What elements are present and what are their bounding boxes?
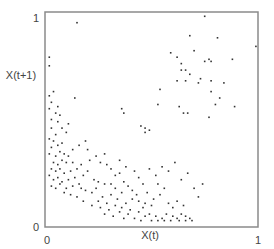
- data-point: [49, 56, 51, 58]
- data-point: [70, 194, 72, 196]
- data-point: [49, 153, 51, 155]
- data-point: [68, 179, 70, 181]
- data-point: [74, 97, 76, 99]
- data-point: [185, 215, 187, 217]
- data-point: [110, 168, 112, 170]
- data-point: [161, 218, 163, 220]
- data-point: [189, 218, 191, 220]
- data-point: [210, 61, 212, 63]
- scatter-chart: 1 0 0 1 X(t+1) X(t): [0, 0, 274, 249]
- data-point: [210, 91, 212, 93]
- data-point: [185, 220, 187, 222]
- data-point: [119, 211, 121, 213]
- data-point: [100, 162, 102, 164]
- data-point: [185, 69, 187, 71]
- data-point: [123, 112, 125, 114]
- data-point: [176, 218, 178, 220]
- data-point: [144, 215, 146, 217]
- data-point: [142, 183, 144, 185]
- x-tick-0: 0: [44, 234, 50, 246]
- data-point: [59, 168, 61, 170]
- data-point: [140, 125, 142, 127]
- x-tick-1: 1: [255, 234, 261, 246]
- data-point: [168, 170, 170, 172]
- data-point: [157, 183, 159, 185]
- data-point: [157, 104, 159, 106]
- data-point: [181, 69, 183, 71]
- data-point: [138, 200, 140, 202]
- data-points: [49, 16, 257, 222]
- data-point: [127, 185, 129, 187]
- data-point: [49, 175, 51, 177]
- data-point: [187, 172, 189, 174]
- data-point: [189, 35, 191, 37]
- data-point: [55, 155, 57, 157]
- data-point: [98, 200, 100, 202]
- data-point: [76, 196, 78, 198]
- data-point: [112, 215, 114, 217]
- data-point: [66, 188, 68, 190]
- data-point: [127, 213, 129, 215]
- data-point: [55, 134, 57, 136]
- data-point: [149, 213, 151, 215]
- data-point: [121, 108, 123, 110]
- data-point: [149, 129, 151, 131]
- data-point: [91, 192, 93, 194]
- data-point: [164, 220, 166, 222]
- data-point: [193, 50, 195, 52]
- data-point: [104, 153, 106, 155]
- data-point: [61, 142, 63, 144]
- data-point: [189, 74, 191, 76]
- data-point: [83, 200, 85, 202]
- data-point: [49, 108, 51, 110]
- data-point: [125, 203, 127, 205]
- data-point: [51, 119, 53, 121]
- data-point: [202, 183, 204, 185]
- data-point: [108, 209, 110, 211]
- data-point: [159, 194, 161, 196]
- data-point: [119, 160, 121, 162]
- data-point: [110, 183, 112, 185]
- plot-frame: [45, 12, 258, 227]
- data-point: [61, 181, 63, 183]
- data-point: [208, 59, 210, 61]
- data-point: [106, 203, 108, 205]
- data-point: [151, 205, 153, 207]
- data-point: [119, 172, 121, 174]
- data-point: [144, 127, 146, 129]
- data-point: [183, 112, 185, 114]
- data-point: [104, 213, 106, 215]
- data-point: [59, 183, 61, 185]
- data-point: [85, 140, 87, 142]
- data-point: [129, 209, 131, 211]
- data-point: [78, 183, 80, 185]
- data-point: [217, 37, 219, 39]
- data-point: [138, 211, 140, 213]
- data-point: [49, 95, 51, 97]
- data-point: [51, 102, 53, 104]
- data-point: [87, 149, 89, 151]
- data-point: [49, 65, 51, 67]
- data-point: [102, 196, 104, 198]
- data-point: [151, 220, 153, 222]
- data-point: [57, 177, 59, 179]
- y-tick-1: 1: [33, 12, 39, 24]
- data-point: [63, 172, 65, 174]
- data-point: [166, 213, 168, 215]
- y-axis-label: X(t+1): [6, 69, 36, 81]
- data-point: [208, 117, 210, 119]
- data-point: [183, 205, 185, 207]
- data-point: [121, 192, 123, 194]
- data-point: [57, 121, 59, 123]
- data-point: [61, 160, 63, 162]
- data-point: [123, 181, 125, 183]
- data-point: [187, 112, 189, 114]
- data-point: [68, 155, 70, 157]
- data-point: [132, 190, 134, 192]
- data-point: [234, 106, 236, 108]
- data-point: [49, 138, 51, 140]
- data-point: [219, 97, 221, 99]
- data-point: [121, 207, 123, 209]
- data-point: [106, 164, 108, 166]
- data-point: [159, 89, 161, 91]
